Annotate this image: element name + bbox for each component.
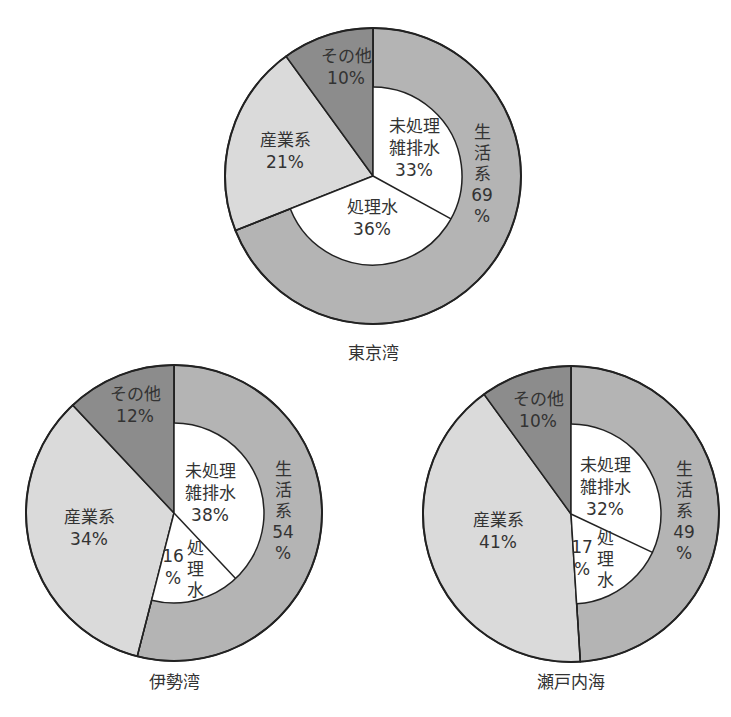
slice-label: 未処理雑排水38% — [185, 461, 236, 525]
chart-title: 伊勢湾 — [149, 672, 200, 692]
pie-chart-seto-inland-sea: その他10%産業系41%未処理雑排水32%17%処理水生活系49%瀬戸内海 — [423, 366, 719, 692]
slice-label: 処理水 — [597, 528, 614, 590]
slice-label: 処理水 — [187, 538, 204, 600]
slice-label: 未処理雑排水32% — [580, 455, 631, 519]
pie-chart-tokyo-bay: その他10%産業系21%未処理雑排水33%処理水36%生活系69%東京湾 — [225, 28, 521, 363]
pie-chart-ise-bay: その他12%産業系34%未処理雑排水38%16%処理水生活系54%伊勢湾 — [26, 365, 322, 692]
pie-charts-canvas: その他10%産業系21%未処理雑排水33%処理水36%生活系69%東京湾 その他… — [0, 0, 731, 717]
chart-title: 東京湾 — [348, 343, 399, 363]
slice-label: 生活系69% — [471, 122, 493, 226]
slice-label: 未処理雑排水33% — [389, 116, 440, 180]
chart-title: 瀬戸内海 — [537, 672, 605, 692]
slice-label: 生活系54% — [272, 459, 294, 563]
slice-label: 生活系49% — [673, 459, 695, 563]
